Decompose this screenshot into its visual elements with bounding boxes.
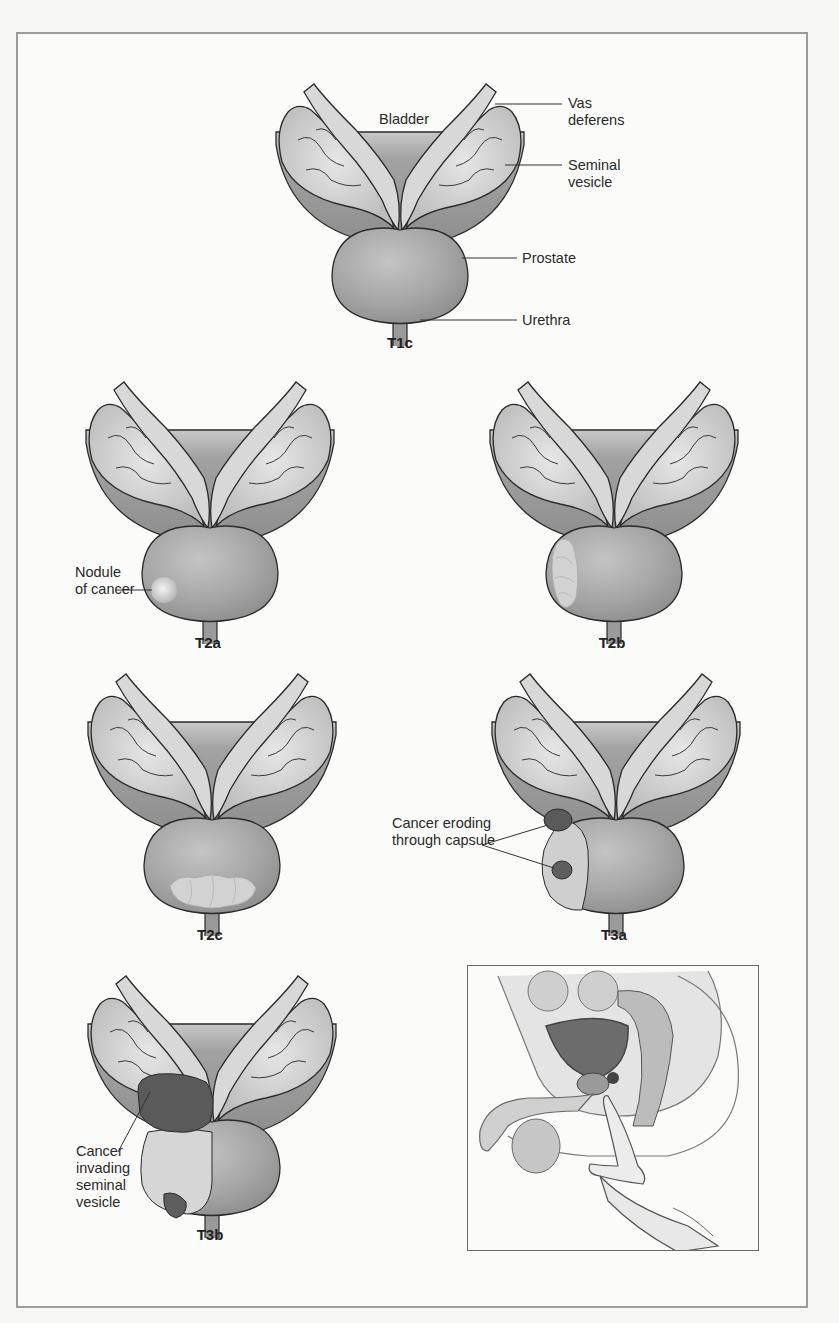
- panel-t2a: T2a: [70, 368, 350, 658]
- label-prostate: Prostate: [522, 250, 576, 267]
- panel-t3a: T3a: [476, 660, 756, 950]
- label-bladder: Bladder: [379, 111, 429, 128]
- stage-label: T2a: [178, 634, 238, 651]
- seminal-vesicle-invasion: [138, 1074, 213, 1133]
- stage-label: T2b: [582, 634, 642, 651]
- label-cancer-eroding-capsule: Cancer eroding through capsule: [392, 815, 495, 849]
- prostate-anatomy-illustration: [70, 368, 350, 658]
- stage-label: T3a: [584, 926, 644, 943]
- stage-label: T3b: [180, 1226, 240, 1243]
- dre-inset: [467, 965, 759, 1251]
- cancer-nodule: [151, 577, 177, 603]
- panel-t2c: T2c: [72, 660, 352, 950]
- prostate-anatomy-illustration: [476, 660, 756, 950]
- prostate-anatomy-illustration: [72, 660, 352, 950]
- label-seminal-vesicle: Seminal vesicle: [568, 157, 620, 191]
- label-vas-deferens: Vas deferens: [568, 95, 624, 129]
- capsule-erosion: [544, 809, 572, 831]
- panel-t2b: T2b: [474, 368, 754, 658]
- label-nodule-of-cancer: Nodule of cancer: [75, 564, 135, 598]
- stage-label: T2c: [180, 926, 240, 943]
- label-cancer-invading-seminal-vesicle: Cancer invading seminal vesicle: [76, 1143, 130, 1211]
- label-urethra: Urethra: [522, 312, 570, 329]
- prostate-anatomy-illustration: [474, 368, 754, 658]
- capsule-erosion: [552, 861, 572, 879]
- digital-rectal-exam-illustration: [468, 966, 759, 1251]
